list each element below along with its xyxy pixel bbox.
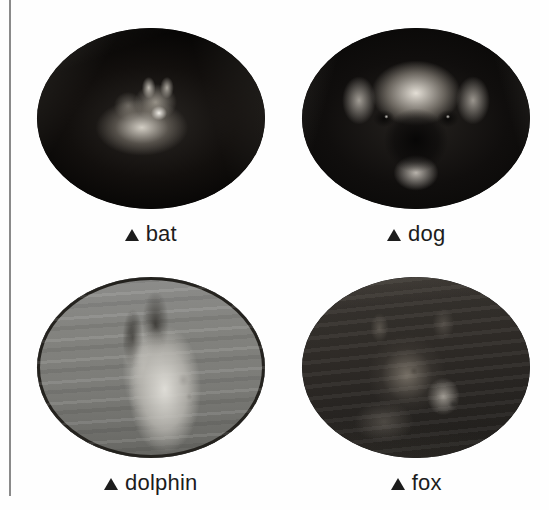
figure-cell-dog[interactable]: dog — [284, 0, 549, 255]
figure-image-fox[interactable] — [302, 277, 530, 458]
triangle-up-icon — [104, 478, 118, 490]
figure-cell-fox[interactable]: fox — [284, 255, 549, 510]
fox-photo — [302, 277, 530, 458]
figure-label-dog: dog — [408, 223, 445, 245]
dolphin-photo — [37, 277, 265, 458]
figure-caption-dog: dog — [387, 223, 445, 245]
triangle-up-icon — [125, 229, 139, 241]
figure-plate: bat dog dolphin — [0, 0, 549, 510]
triangle-up-icon — [391, 478, 405, 490]
figure-caption-dolphin: dolphin — [104, 472, 197, 494]
figure-image-dolphin[interactable] — [37, 277, 265, 458]
figure-label-bat: bat — [146, 223, 177, 245]
page-margin-rule — [9, 0, 11, 496]
triangle-up-icon — [387, 229, 401, 241]
figure-image-dog[interactable] — [302, 28, 530, 209]
bat-photo — [37, 28, 265, 209]
dog-photo — [302, 28, 530, 209]
figure-label-dolphin: dolphin — [125, 472, 197, 494]
figure-cell-dolphin[interactable]: dolphin — [18, 255, 284, 510]
figure-cell-bat[interactable]: bat — [18, 0, 284, 255]
figure-label-fox: fox — [412, 472, 442, 494]
figure-image-bat[interactable] — [37, 28, 265, 209]
figure-grid: bat dog dolphin — [18, 0, 549, 510]
figure-caption-bat: bat — [125, 223, 177, 245]
figure-caption-fox: fox — [391, 472, 442, 494]
